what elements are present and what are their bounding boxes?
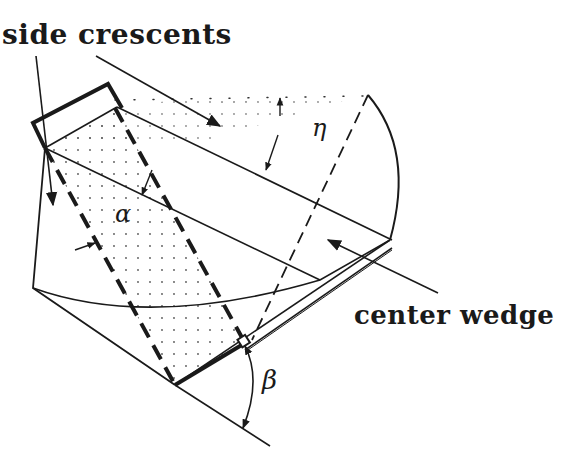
wedge-line-inner <box>245 248 392 350</box>
eta-arrow-down <box>266 135 278 170</box>
dashed-diagonal-right <box>252 95 368 340</box>
stippled-strip <box>45 108 245 385</box>
beta-arc <box>243 346 253 428</box>
quarter-arc <box>368 95 399 240</box>
eta-angle-label: η <box>312 114 326 142</box>
alpha-angle-label: α <box>115 200 131 228</box>
side-crescents-label: side crescents <box>2 18 232 51</box>
bottom-extension-line <box>175 385 270 446</box>
beta-angle-label: β <box>262 365 277 395</box>
alpha-arrow-lower <box>75 243 95 250</box>
center-wedge-label: center wedge <box>354 300 554 330</box>
diagram-canvas <box>0 0 582 466</box>
